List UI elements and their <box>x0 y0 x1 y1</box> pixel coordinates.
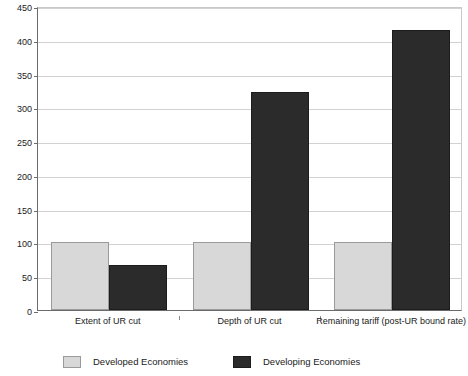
y-tick-label: 400 <box>17 37 32 46</box>
chart-legend: Developed EconomiesDeveloping Economies <box>0 352 468 376</box>
legend-item: Developing Economies <box>233 352 360 372</box>
bar-chart: 050100150200250300350400450 Extent of UR… <box>0 0 468 376</box>
legend-swatch-icon <box>63 356 81 368</box>
y-tick-mark <box>34 109 38 110</box>
bar-developed <box>51 242 109 310</box>
y-tick-mark <box>34 312 38 313</box>
y-tick-mark <box>34 8 38 9</box>
x-axis-category-label: Remaining tariff (post-UR bound rate) <box>316 316 466 327</box>
x-axis-labels: Extent of UR cutDepth of UR cutRemaining… <box>37 316 462 336</box>
y-tick-mark <box>34 177 38 178</box>
y-tick-label: 0 <box>27 308 32 317</box>
bar-developed <box>193 242 251 310</box>
y-tick-mark <box>34 42 38 43</box>
bar-developing <box>251 92 309 310</box>
bar-developed <box>334 242 392 310</box>
y-tick-mark <box>34 278 38 279</box>
y-tick-mark <box>34 143 38 144</box>
y-tick-label: 150 <box>17 206 32 215</box>
x-axis-category-label: Depth of UR cut <box>217 316 281 327</box>
legend-label: Developing Economies <box>263 357 360 367</box>
y-tick-label: 200 <box>17 172 32 181</box>
y-tick-mark <box>34 76 38 77</box>
y-tick-label: 250 <box>17 139 32 148</box>
y-tick-label: 350 <box>17 71 32 80</box>
legend-swatch-icon <box>233 356 251 368</box>
y-tick-mark <box>34 211 38 212</box>
y-tick-mark <box>34 244 38 245</box>
plot-area: 050100150200250300350400450 <box>37 7 462 311</box>
y-tick-label: 50 <box>22 274 32 283</box>
y-tick-label: 450 <box>17 4 32 13</box>
legend-item: Developed Economies <box>63 352 188 372</box>
x-axis-category-label: Extent of UR cut <box>75 316 141 327</box>
bar-developing <box>109 265 167 310</box>
y-tick-label: 300 <box>17 105 32 114</box>
legend-label: Developed Economies <box>93 357 188 367</box>
x-tick-mark <box>179 316 180 320</box>
y-tick-label: 100 <box>17 240 32 249</box>
bar-developing <box>392 30 450 310</box>
gridline <box>38 8 461 9</box>
